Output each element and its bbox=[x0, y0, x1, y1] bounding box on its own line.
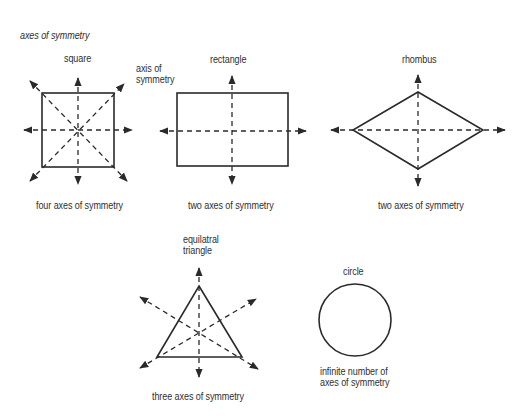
diagram-title: axes of symmetry bbox=[20, 29, 89, 41]
rectangle-label: rectangle bbox=[210, 53, 246, 65]
rectangle-caption: two axes of symmetry bbox=[188, 199, 274, 211]
circle-caption-line-2: axes of symmetry bbox=[320, 376, 389, 388]
circle-label: circle bbox=[343, 265, 364, 277]
rhombus-caption: two axes of symmetry bbox=[378, 199, 464, 211]
square-figure bbox=[24, 78, 132, 184]
rhombus-figure bbox=[331, 75, 505, 186]
triangle-figure bbox=[140, 268, 258, 377]
triangle-label-line-2: triangle bbox=[183, 244, 212, 256]
rectangle-figure bbox=[160, 76, 306, 184]
square-label: square bbox=[64, 52, 91, 64]
triangle-caption: three axes of symmetry bbox=[152, 390, 244, 402]
annotation-line-2: symmetry bbox=[136, 73, 174, 85]
circle-figure bbox=[319, 284, 391, 356]
square-caption: four axes of symmetry bbox=[36, 199, 123, 211]
rhombus-label: rhombus bbox=[402, 53, 437, 65]
